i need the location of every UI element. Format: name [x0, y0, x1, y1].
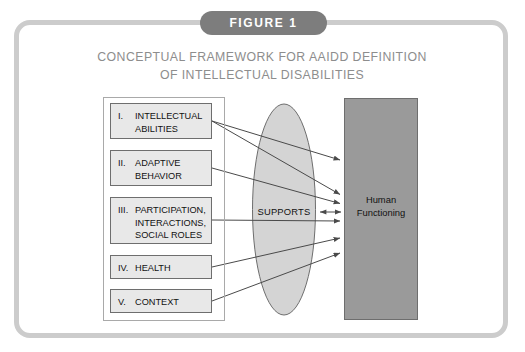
dimension-label-line-2: BEHAVIOR: [135, 171, 182, 181]
dimension-row: V. CONTEXT: [111, 296, 211, 309]
dimension-label-line-2: INTERACTIONS,: [135, 218, 206, 228]
dimension-label-line-1: PARTICIPATION,: [135, 205, 206, 215]
figure-container: FIGURE 1 CONCEPTUAL FRAMEWORK FOR AAIDD …: [0, 0, 525, 352]
dimension-numeral: IV.: [118, 262, 135, 275]
human-functioning-label: Human Functioning: [344, 193, 418, 219]
figure-number-banner: FIGURE 1: [200, 11, 327, 35]
dimension-box-context[interactable]: V. CONTEXT: [110, 289, 212, 313]
dimension-numeral: I.: [118, 110, 135, 123]
dimension-label: INTELLECTUAL ABILITIES: [135, 110, 211, 135]
dimension-box-intellectual-abilities[interactable]: I. INTELLECTUAL ABILITIES: [110, 103, 212, 139]
dimension-label-line-3: SOCIAL ROLES: [135, 230, 202, 240]
dimension-label: PARTICIPATION, INTERACTIONS, SOCIAL ROLE…: [135, 204, 211, 242]
dimension-label-line-1: INTELLECTUAL: [135, 111, 202, 121]
dimension-box-adaptive-behavior[interactable]: II. ADAPTIVE BEHAVIOR: [110, 150, 212, 186]
dimension-label-line-1: ADAPTIVE: [135, 158, 180, 168]
dimension-numeral: III.: [118, 204, 135, 217]
dimension-numeral: V.: [118, 296, 135, 309]
diagram-canvas: [0, 0, 525, 352]
dimension-label-line-2: ABILITIES: [135, 124, 178, 134]
diagram-vector-layer: [0, 0, 525, 352]
dimension-box-health[interactable]: IV. HEALTH: [110, 255, 212, 279]
dimension-row: III. PARTICIPATION, INTERACTIONS, SOCIAL…: [111, 204, 211, 242]
human-functioning-label-line-2: Functioning: [357, 207, 405, 218]
connector-line-3: [212, 220, 340, 221]
dimension-row: I. INTELLECTUAL ABILITIES: [111, 110, 211, 135]
dimension-label: CONTEXT: [135, 296, 211, 309]
dimension-numeral: II.: [118, 157, 135, 170]
human-functioning-label-line-1: Human: [366, 194, 396, 205]
dimension-label: ADAPTIVE BEHAVIOR: [135, 157, 211, 182]
dimension-row: II. ADAPTIVE BEHAVIOR: [111, 157, 211, 182]
dimension-box-participation[interactable]: III. PARTICIPATION, INTERACTIONS, SOCIAL…: [110, 197, 212, 244]
dimension-label: HEALTH: [135, 262, 211, 275]
dimension-row: IV. HEALTH: [111, 262, 211, 275]
supports-label: SUPPORTS: [251, 206, 317, 217]
